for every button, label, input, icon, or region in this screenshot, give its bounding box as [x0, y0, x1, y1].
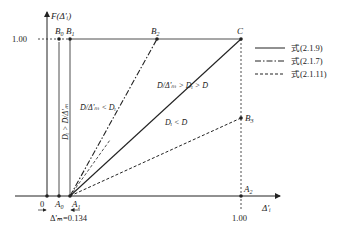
line-dashed-inner — [70, 140, 110, 196]
label-origin: 0 — [40, 199, 44, 209]
region-upper-left: D̄/Δ'ₘ < Dᵢ — [79, 103, 116, 112]
point-b2 — [155, 37, 159, 41]
x-axis-label: Δ'ᵢ — [261, 203, 271, 213]
legend-solid-label: 式(2.1.9) — [291, 43, 323, 53]
point-origin — [45, 194, 49, 198]
label-b1: B1 — [66, 26, 75, 37]
label-b0: B0 — [55, 26, 64, 37]
label-b3: B3 — [245, 113, 254, 124]
legend-dashed-label: 式(2.1.11) — [291, 69, 327, 79]
label-c: C — [237, 26, 244, 36]
y-axis-label: F(Δ'ᵢ) — [50, 11, 71, 21]
line-dashdot-eq-2-1-7 — [70, 39, 157, 196]
delta-m-label: Δ'ₘ=0.134 — [50, 213, 88, 223]
point-b0 — [57, 37, 61, 41]
point-a2 — [239, 194, 243, 198]
region-left-vertical: Dᵢ > D̄/Δ'ₘ — [61, 104, 70, 141]
line-dashed-eq-2-1-11 — [70, 118, 241, 196]
point-a0 — [57, 194, 61, 198]
y-tick-label: 1.00 — [12, 34, 27, 44]
label-a2: A2 — [243, 184, 253, 195]
line-solid-eq-2-1-9 — [70, 39, 241, 196]
region-middle: D̄/Δ'ₘ > Dᵢ > D̄ — [156, 81, 208, 90]
region-lower: Dᵢ < D̄ — [164, 118, 187, 127]
point-b1 — [68, 37, 72, 41]
point-a1 — [68, 194, 72, 198]
legend-dashdot-label: 式(2.1.7) — [291, 56, 323, 66]
point-b3 — [239, 116, 243, 120]
label-b2: B2 — [151, 26, 160, 37]
label-a0: A0 — [54, 199, 64, 210]
label-a1: A1 — [71, 199, 81, 210]
x-tick-label: 1.00 — [232, 213, 247, 223]
point-c — [239, 37, 243, 41]
legend: 式(2.1.9) 式(2.1.7) 式(2.1.11) — [255, 43, 327, 79]
distribution-diagram: F(Δ'ᵢ) Δ'ᵢ 1.00 B0 B1 B2 C B3 0 A0 A1 A2… — [0, 0, 343, 236]
